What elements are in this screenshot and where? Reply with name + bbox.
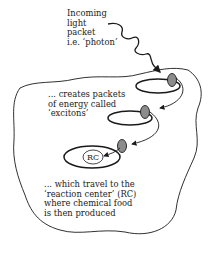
rc-label: ... which travel to the ‘reaction center… bbox=[44, 180, 136, 218]
exciton-1 bbox=[168, 74, 177, 87]
rc-text: RC bbox=[87, 153, 99, 162]
photon-label: Incoming light packet i.e. ‘photon’ bbox=[67, 9, 118, 47]
exciton-2 bbox=[141, 106, 150, 119]
exciton-3 bbox=[118, 140, 127, 153]
exciton-label: ... creates packets of energy called ‘ex… bbox=[48, 90, 125, 119]
